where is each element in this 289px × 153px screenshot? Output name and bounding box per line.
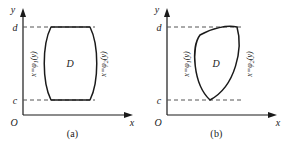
panel-b-caption: (b) xyxy=(144,128,289,139)
origin-label: O xyxy=(154,117,161,128)
x-axis-label: x xyxy=(275,117,281,128)
tick-label-upper: d xyxy=(13,22,19,33)
left-curve-arg: (y) xyxy=(29,51,38,60)
panel-a: y x O d c D x=φ1(y) x=φ2(y) xyxy=(0,0,145,153)
svg-text:x=φ2(y): x=φ2(y) xyxy=(99,51,109,78)
left-curve-prefix: x= xyxy=(182,68,191,78)
y-axis-arrowhead xyxy=(164,8,170,17)
left-curve-label: x=φ1(y) xyxy=(182,51,192,78)
tick-label-lower: c xyxy=(157,95,162,106)
tick-label-upper: d xyxy=(157,22,163,33)
right-curve-label: x=φ2(y) xyxy=(245,51,255,78)
right-curve-prefix: x= xyxy=(245,68,254,78)
left-curve-prefix: x= xyxy=(29,68,38,78)
svg-text:x=φ1(y): x=φ1(y) xyxy=(29,51,39,78)
right-curve-arg: (y) xyxy=(99,51,108,60)
x-axis-label: x xyxy=(129,117,135,128)
y-axis-arrowhead xyxy=(20,8,26,17)
panel-a-caption: (a) xyxy=(0,128,145,139)
region-label: D xyxy=(211,58,220,69)
svg-text:x=φ1(y): x=φ1(y) xyxy=(182,51,192,78)
left-curve-arg: (y) xyxy=(182,51,191,60)
origin-label: O xyxy=(10,117,17,128)
region-label: D xyxy=(65,58,74,69)
right-curve-arg: (y) xyxy=(245,51,254,60)
tick-label-lower: c xyxy=(13,95,18,106)
right-curve-prefix: x= xyxy=(99,68,108,78)
svg-text:x=φ2(y): x=φ2(y) xyxy=(245,51,255,78)
left-curve-label: x=φ1(y) xyxy=(29,51,39,78)
figure-container: y x O d c D x=φ1(y) x=φ2(y) xyxy=(0,0,289,153)
panel-b: y x O d c D x=φ1(y) x=φ2(y) xyxy=(144,0,289,153)
y-axis-label: y xyxy=(154,4,160,15)
right-curve-label: x=φ2(y) xyxy=(99,51,109,78)
y-axis-label: y xyxy=(10,4,16,15)
